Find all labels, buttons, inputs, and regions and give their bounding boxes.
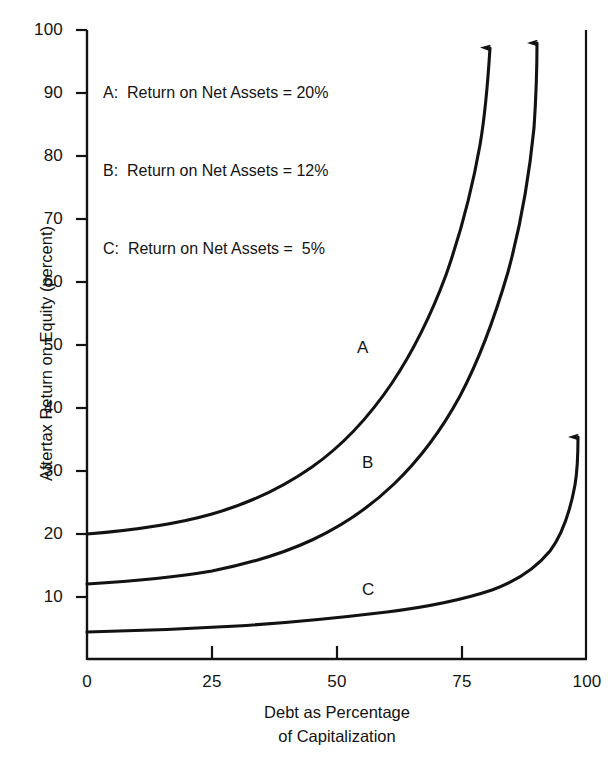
y-tick-label-80: 80 bbox=[17, 146, 63, 166]
chart-figure: 100 90 80 70 60 50 40 30 20 10 0 25 50 7… bbox=[0, 0, 608, 758]
x-axis-title-line1: Debt as Percentage bbox=[264, 703, 410, 721]
legend-item-b: B: Return on Net Assets = 12% bbox=[103, 158, 328, 184]
x-tick-label-75: 75 bbox=[432, 672, 492, 692]
x-axis-ticks bbox=[212, 646, 462, 659]
y-tick-label-100: 100 bbox=[17, 20, 63, 40]
x-axis-title: Debt as Percentage of Capitalization bbox=[87, 700, 587, 748]
curve-annotation-c: C bbox=[362, 580, 374, 600]
legend: A: Return on Net Assets = 20% B: Return … bbox=[103, 28, 328, 314]
y-tick-label-20: 20 bbox=[17, 524, 63, 544]
curve-annotation-a: A bbox=[357, 338, 368, 358]
curve-annotation-b: B bbox=[362, 453, 373, 473]
x-tick-label-0: 0 bbox=[57, 672, 117, 692]
y-tick-label-10: 10 bbox=[17, 587, 63, 607]
y-axis-ticks bbox=[76, 30, 87, 597]
x-tick-label-100: 100 bbox=[557, 672, 608, 692]
x-axis-title-line2: of Capitalization bbox=[278, 727, 395, 745]
series-curve-c bbox=[87, 437, 578, 632]
legend-item-c: C: Return on Net Assets = 5% bbox=[103, 236, 328, 262]
legend-item-a: A: Return on Net Assets = 20% bbox=[103, 80, 328, 106]
x-tick-label-50: 50 bbox=[307, 672, 367, 692]
y-tick-label-90: 90 bbox=[17, 83, 63, 103]
y-axis-title: Aftertax Return on Equity (percent) bbox=[37, 204, 56, 504]
x-tick-label-25: 25 bbox=[182, 672, 242, 692]
